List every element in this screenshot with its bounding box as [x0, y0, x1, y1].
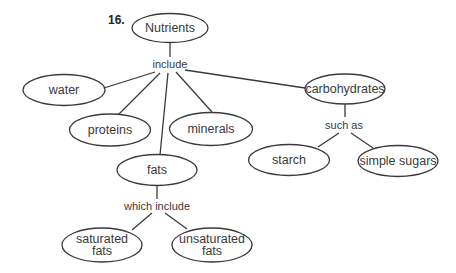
question-number: 16. — [108, 13, 125, 27]
link-which-include: which include — [123, 200, 190, 212]
nutrients-label: Nutrients — [145, 21, 195, 35]
edge-include-proteins — [118, 73, 160, 115]
edge-which-include-unsaturated — [165, 213, 187, 229]
node-simple-sugars: simple sugars — [358, 146, 438, 177]
node-unsaturated-fats: unsaturated fats — [172, 228, 252, 262]
fats-label: fats — [147, 163, 167, 177]
link-include: include — [153, 58, 188, 70]
concept-map: 16. Nutrients include water proteins min… — [0, 0, 456, 273]
proteins-label: proteins — [88, 123, 132, 137]
edge-include-carbohydrates — [185, 70, 305, 88]
edge-include-fats — [160, 73, 168, 155]
edge-include-minerals — [176, 72, 212, 112]
node-carbohydrates: carbohydrates — [305, 74, 385, 104]
link-such-as: such as — [325, 119, 363, 131]
node-water: water — [23, 75, 105, 106]
saturated-fats-label-line2: fats — [92, 244, 112, 258]
water-label: water — [48, 83, 80, 97]
node-proteins: proteins — [70, 114, 151, 146]
unsaturated-fats-label-line2: fats — [202, 244, 222, 258]
node-minerals: minerals — [170, 113, 253, 146]
node-starch: starch — [249, 145, 330, 176]
edge-which-include-saturated — [132, 213, 152, 230]
minerals-label: minerals — [187, 122, 234, 136]
node-nutrients: Nutrients — [132, 14, 208, 43]
simple-sugars-label: simple sugars — [359, 154, 436, 168]
carbohydrates-label: carbohydrates — [305, 82, 384, 96]
node-saturated-fats: saturated fats — [62, 228, 142, 262]
starch-label: starch — [272, 153, 306, 167]
edge-such-as-starch — [318, 133, 339, 147]
node-fats: fats — [117, 155, 197, 186]
edge-such-as-simple-sugars — [351, 133, 373, 148]
